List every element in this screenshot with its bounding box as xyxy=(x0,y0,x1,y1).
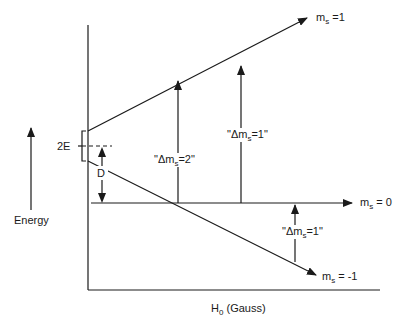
level-ms-minus1-label: ms = -1 xyxy=(322,270,358,285)
energy-label: Energy xyxy=(14,214,49,226)
d-label: D xyxy=(97,167,105,179)
d-arrow-up-icon xyxy=(98,147,106,157)
energy-level-diagram: Energy ms =1 ms = 0 ms = -1 2E D "Δms=2"… xyxy=(0,0,398,327)
d-arrow-down-icon xyxy=(98,193,106,203)
two-e-label: 2E xyxy=(57,140,70,152)
level-ms-plus1-label: ms =1 xyxy=(316,11,345,26)
level-ms-0-label: ms = 0 xyxy=(360,196,392,211)
level-ms-minus1 xyxy=(88,161,316,275)
level-ms-plus1 xyxy=(88,18,307,131)
x-axis-label: H0 (Gauss) xyxy=(211,302,266,317)
